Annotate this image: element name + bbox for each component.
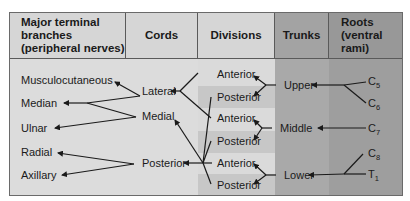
table-frame bbox=[9, 12, 403, 196]
